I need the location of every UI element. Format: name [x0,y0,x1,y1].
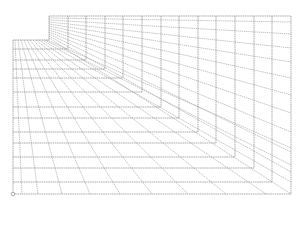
wall-ray-line [49,20,291,34]
wall-rays [49,18,291,194]
floor-ray-line [24,40,90,194]
origin-marker-icon [11,192,15,196]
perspective-grid-diagram [0,0,299,227]
wall-ray-line [49,38,291,194]
floor-rays [15,40,291,194]
wall-ray-line [49,34,291,152]
wall-ray-line [49,24,291,62]
floor-ray-line [27,40,120,194]
floor-ray-line [33,40,188,194]
floor-ray-line [39,40,266,194]
floor-ray-line [36,40,226,194]
wall-ray-line [49,18,291,22]
wall-ray-line [49,22,291,48]
wall-ray-line [49,32,291,132]
